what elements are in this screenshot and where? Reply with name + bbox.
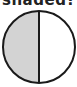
fraction-circle-diagram xyxy=(0,0,77,87)
shaded-half xyxy=(3,11,39,83)
unshaded-half xyxy=(39,11,75,83)
